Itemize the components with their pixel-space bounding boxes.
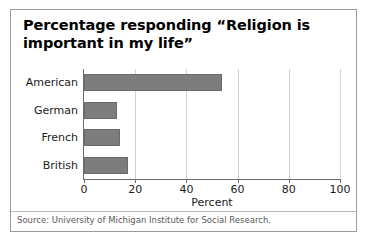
x-tick-label-100: 100 — [330, 183, 351, 196]
x-axis-label: Percent — [84, 196, 340, 209]
bar-american — [84, 74, 222, 91]
bar-british — [84, 157, 128, 174]
bar-row: French — [84, 124, 340, 152]
footer-divider — [11, 211, 356, 212]
x-axis-line — [83, 179, 340, 180]
chart-figure: Percentage responding “Religion is impor… — [10, 9, 357, 232]
category-label-american: American — [26, 74, 78, 91]
x-tick-label-60: 60 — [231, 183, 245, 196]
bar-row: American — [84, 69, 340, 97]
chart-title: Percentage responding “Religion is impor… — [23, 16, 323, 52]
plot-area: AmericanGermanFrenchBritish — [84, 69, 340, 179]
bar-row: British — [84, 152, 340, 180]
x-tick-label-0: 0 — [81, 183, 88, 196]
bar-german — [84, 102, 117, 119]
bar-french — [84, 129, 120, 146]
gridline — [340, 69, 341, 179]
category-label-british: British — [43, 157, 78, 174]
x-tick-label-20: 20 — [128, 183, 142, 196]
source-note: Source: University of Michigan Institute… — [17, 215, 271, 225]
bar-row: German — [84, 97, 340, 125]
x-tick-label-40: 40 — [179, 183, 193, 196]
category-label-german: German — [34, 102, 78, 119]
category-label-french: French — [41, 129, 78, 146]
x-tick-label-80: 80 — [282, 183, 296, 196]
